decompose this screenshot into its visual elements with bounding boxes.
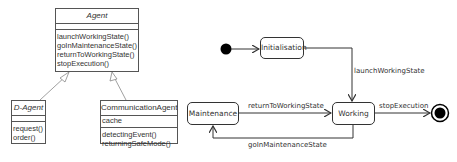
generalization-d-agent	[40, 72, 69, 100]
operation: request()	[13, 124, 45, 133]
transition-label-return-to-working: returnToWorkingState	[248, 102, 324, 110]
class-agent-name: Agent	[56, 9, 138, 24]
class-communication-agent[interactable]: CommunicationAgent cache detectingEvent(…	[100, 100, 178, 144]
class-agent-operations: launchWorkingState() goInMaintenanceStat…	[56, 30, 138, 68]
generalization-communication-agent	[110, 72, 126, 100]
operation: returnToWorkingState()	[57, 50, 138, 59]
class-agent[interactable]: Agent launchWorkingState() goInMaintenan…	[55, 8, 139, 72]
operation: launchWorkingState()	[57, 32, 138, 41]
class-communication-agent-attributes: cache	[101, 116, 177, 128]
transition-label-launch: launchWorkingState	[354, 67, 424, 75]
transition-label-stop: stopExecution	[379, 102, 428, 110]
initial-state	[221, 44, 232, 55]
state-maintenance[interactable]: Maintenance	[187, 102, 239, 125]
final-state	[432, 105, 449, 122]
operation: order()	[13, 133, 45, 142]
operation: detectingEvent()	[102, 130, 177, 139]
class-d-agent-name: D-Agent	[12, 101, 45, 116]
class-d-agent[interactable]: D-Agent request() order()	[11, 100, 46, 144]
operation: stopExecution()	[57, 59, 138, 68]
class-communication-agent-name: CommunicationAgent	[101, 101, 177, 116]
class-d-agent-operations: request() order()	[12, 122, 45, 142]
class-communication-agent-operations: detectingEvent() returningSafeMode()	[101, 128, 177, 148]
state-working[interactable]: Working	[332, 102, 375, 125]
transition-label-go-maintenance: goInMaintenanceState	[248, 141, 327, 149]
state-initialisation[interactable]: Initialisation	[260, 37, 304, 59]
attribute: cache	[102, 116, 177, 125]
operation: goInMaintenanceState()	[57, 41, 138, 50]
operation: returningSafeMode()	[102, 139, 177, 148]
